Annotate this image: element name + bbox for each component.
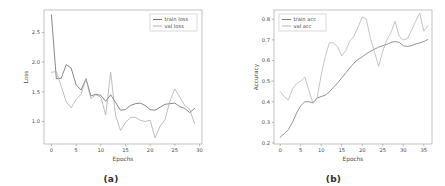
y-tick-label: 0.7 <box>262 37 270 43</box>
x-tick-label: 5 <box>74 147 77 153</box>
x-tick-label: 10 <box>318 147 325 153</box>
y-tick-label: 0.5 <box>262 78 270 84</box>
legend-label: train acc <box>294 16 317 22</box>
series-line <box>51 72 194 138</box>
x-tick-label: 35 <box>420 147 427 153</box>
panel-a-caption: (a) <box>0 174 222 184</box>
figure-container: 0510152025301.01.52.02.5EpochsLosstrain … <box>0 0 445 186</box>
y-axis-title: Loss <box>23 71 29 84</box>
y-tick-label: 0.2 <box>262 140 270 146</box>
y-tick-label: 0.6 <box>262 57 270 63</box>
y-tick-label: 1.5 <box>32 89 40 95</box>
legend-label: val loss <box>165 23 185 29</box>
x-tick-label: 10 <box>97 147 104 153</box>
loss-panel: 0510152025301.01.52.02.5EpochsLosstrain … <box>0 0 222 186</box>
x-tick-label: 30 <box>196 147 203 153</box>
legend-label: val acc <box>294 23 312 29</box>
y-tick-label: 0.8 <box>262 16 270 22</box>
x-tick-label: 0 <box>50 147 53 153</box>
x-tick-label: 15 <box>122 147 129 153</box>
x-axis-title: Epochs <box>343 156 364 163</box>
y-tick-label: 0.4 <box>262 99 271 105</box>
x-tick-label: 30 <box>400 147 407 153</box>
accuracy-chart: 051015202530350.20.30.40.50.60.70.8Epoch… <box>222 0 445 186</box>
x-tick-label: 15 <box>338 147 345 153</box>
y-tick-label: 2.5 <box>32 29 40 35</box>
y-tick-label: 0.3 <box>262 119 270 125</box>
accuracy-panel: 051015202530350.20.30.40.50.60.70.8Epoch… <box>222 0 445 186</box>
legend-label: train loss <box>165 16 189 22</box>
x-tick-label: 20 <box>359 147 366 153</box>
x-tick-label: 20 <box>147 147 154 153</box>
x-tick-label: 25 <box>379 147 386 153</box>
y-tick-label: 1.0 <box>32 118 40 124</box>
panel-b-caption: (b) <box>222 174 445 184</box>
x-tick-label: 0 <box>278 147 281 153</box>
x-axis-title: Epochs <box>113 156 134 163</box>
y-tick-label: 2.0 <box>32 59 40 65</box>
loss-chart: 0510152025301.01.52.02.5EpochsLosstrain … <box>0 0 222 186</box>
y-axis-title: Accuracy <box>253 63 260 90</box>
x-tick-label: 5 <box>299 147 302 153</box>
x-tick-label: 25 <box>172 147 179 153</box>
series-line <box>280 39 428 137</box>
